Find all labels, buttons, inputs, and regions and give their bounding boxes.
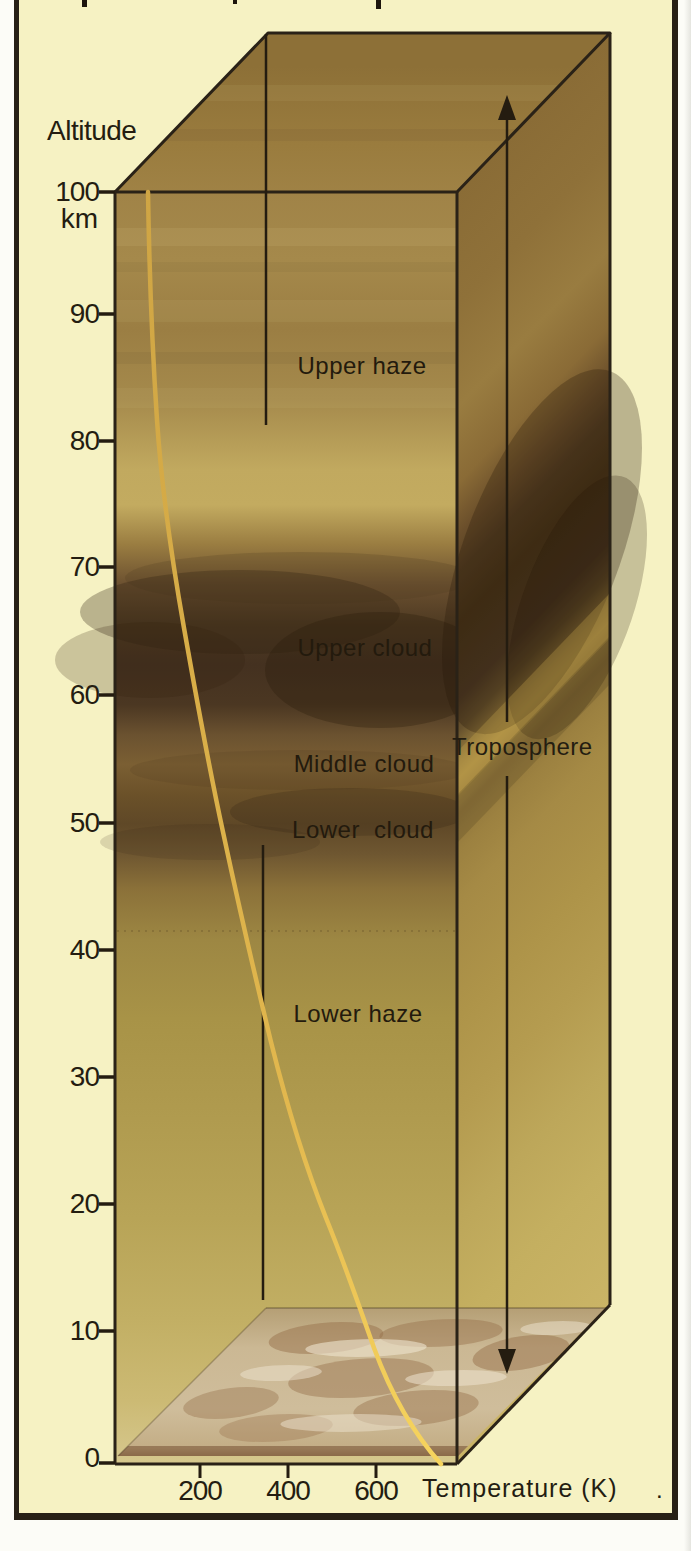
temperature-tick-label-600: 600 (336, 1477, 416, 1505)
temperature-tick-label-200: 200 (160, 1477, 240, 1505)
temperature-tick-label-400: 400 (248, 1477, 328, 1505)
altitude-tick-label-70: 70 (29, 553, 99, 581)
altitude-tick-label-90: 90 (29, 300, 99, 328)
layer-label-troposphere: Troposphere (452, 733, 593, 761)
temperature-axis-title: Temperature (K) (422, 1474, 618, 1502)
altitude-tick-label-60: 60 (29, 681, 99, 709)
altitude-tick-label-100: 100 (29, 178, 99, 206)
altitude-tick-label-50: 50 (29, 809, 99, 837)
altitude-tick-label-20: 20 (29, 1190, 99, 1218)
altitude-tick-label-10: 10 (29, 1317, 99, 1345)
layer-label-lower-cloud: Lower cloud (253, 816, 473, 844)
layer-label-upper-cloud: Upper cloud (255, 634, 475, 662)
altitude-tick-label-30: 30 (29, 1063, 99, 1091)
altitude-tick-label-40: 40 (29, 936, 99, 964)
page-edge-shadow (684, 0, 691, 1551)
layer-label-middle-cloud: Middle cloud (254, 750, 474, 778)
print-dot: . (656, 1476, 663, 1504)
altitude-axis-title: Altitude (47, 116, 136, 146)
figure-page: Altitude 100 km 90 80 70 60 50 40 30 20 … (0, 0, 691, 1551)
altitude-axis-ticks (99, 192, 115, 1463)
altitude-tick-label-0: 0 (29, 1444, 99, 1472)
altitude-unit-label: km (28, 205, 98, 233)
layer-label-lower-haze: Lower haze (248, 1000, 468, 1028)
altitude-tick-label-80: 80 (29, 427, 99, 455)
layer-label-upper-haze: Upper haze (252, 352, 472, 380)
